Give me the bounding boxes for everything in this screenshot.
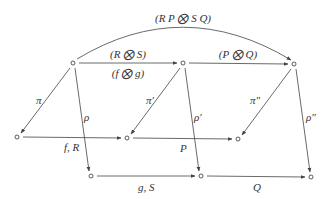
node-n2 (181, 61, 185, 65)
label-top-arc: (R P ⨂ S Q) (155, 12, 211, 25)
label-n8-n9: Q (253, 181, 261, 193)
node-n7 (89, 174, 93, 178)
node-n4 (15, 135, 19, 139)
label-n4-n5: f, R (64, 141, 80, 153)
label-rho: ρ (83, 111, 89, 123)
label-n7-n8: g, S (138, 181, 155, 193)
edge-n8-n9 (207, 176, 305, 177)
node-n5 (125, 136, 129, 140)
label-n1-n2-below: (f ⨂ g) (112, 67, 145, 80)
node-n9 (309, 175, 313, 179)
node-n1 (71, 61, 75, 65)
edge-n5-n6 (133, 138, 232, 139)
label-pi1: π′ (146, 94, 155, 106)
node-n6 (236, 137, 240, 141)
label-rho1: ρ′ (193, 111, 202, 123)
edge-n4-n5 (23, 137, 121, 138)
label-n5-n6: P (179, 142, 187, 154)
edge-n2-n3 (189, 63, 288, 64)
label-rho2: ρ″ (305, 111, 316, 123)
node-n3 (292, 62, 296, 66)
label-n1-n2-above: (R ⨂ S) (110, 48, 146, 61)
label-n2-n3: (P ⨂ Q) (219, 48, 258, 61)
edge-pi (21, 68, 70, 133)
commutative-diagram: (R P ⨂ S Q) (R ⨂ S) (f ⨂ g) (P ⨂ Q) π π′… (0, 0, 332, 199)
label-pi2: π″ (250, 94, 261, 106)
node-n8 (199, 174, 203, 178)
label-pi: π (36, 94, 42, 106)
